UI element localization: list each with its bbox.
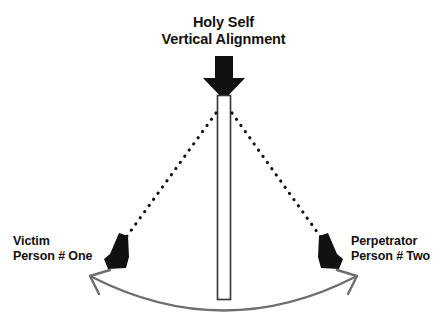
title-line-1: Holy Self [0, 14, 447, 31]
dotted-line-right [232, 113, 325, 243]
down-arrow-icon [203, 56, 245, 100]
left-wedge-arrowhead [104, 233, 129, 269]
right-label-line-1: Perpetrator [351, 234, 430, 249]
right-person-label: Perpetrator Person # Two [351, 234, 430, 264]
dotted-line-left [122, 113, 216, 243]
diagram-title: Holy Self Vertical Alignment [0, 14, 447, 48]
right-wedge-arrowhead [318, 233, 343, 269]
left-label-line-1: Victim [13, 234, 92, 249]
vertical-alignment-bar [218, 96, 231, 300]
left-person-label: Victim Person # One [13, 234, 92, 264]
diagram-canvas: Holy Self Vertical Alignment Victim Pers… [0, 0, 447, 332]
right-label-line-2: Person # Two [351, 249, 430, 264]
title-line-2: Vertical Alignment [0, 31, 447, 48]
left-label-line-2: Person # One [13, 249, 92, 264]
diagram-graphics [0, 0, 447, 332]
